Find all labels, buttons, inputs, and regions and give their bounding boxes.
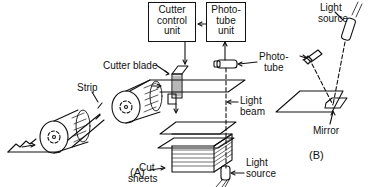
light-source-a-line-2: source — [246, 169, 276, 179]
phototube-unit-line-3: unit — [207, 26, 245, 37]
cutter-blade-label: Cutter blade — [103, 61, 157, 71]
phototube-a-line-1: Photo- — [259, 52, 288, 62]
light-beam-line-2: beam — [240, 107, 265, 117]
phototube-a-label: Photo- tube — [259, 52, 288, 73]
light-beam-label: Light beam — [240, 96, 265, 117]
strip-leader — [92, 92, 98, 102]
cutter-control-unit-line-3: unit — [149, 26, 195, 37]
cutter-control-unit-line-1: Cutter — [149, 5, 195, 16]
light-source-a-line-1: Light — [246, 158, 276, 168]
reflected-beam — [312, 64, 333, 105]
cutter-blade-icon — [168, 66, 188, 104]
light-source-b-line-1: Light — [318, 3, 348, 13]
diagram-canvas: Cutter control unit Photo- tube unit Cut… — [0, 0, 372, 187]
cutter-control-unit-box: Cutter control unit — [148, 2, 196, 42]
phototube-a-icon — [214, 60, 257, 68]
phototube-b-icon — [300, 50, 322, 64]
mirror-label: Mirror — [313, 126, 339, 136]
falling-sheet — [158, 104, 236, 148]
strip-plane — [130, 80, 245, 92]
light-source-b-label: Light source — [318, 3, 348, 24]
light-source-a-icon — [216, 166, 244, 187]
incident-beam — [333, 42, 345, 105]
panel-a-label: (A) — [130, 167, 145, 177]
panel-b-label: (B) — [309, 150, 324, 160]
phototube-unit-line-1: Photo- — [207, 5, 245, 16]
light-source-a-label: Light source — [246, 158, 276, 179]
supply-roll-icon — [22, 110, 90, 153]
mirror-plane — [276, 91, 347, 112]
phototube-a-line-2: tube — [259, 63, 288, 73]
phototube-unit-box: Photo- tube unit — [206, 2, 246, 42]
strip-label: Strip — [77, 83, 98, 93]
light-source-b-line-2: source — [318, 14, 348, 24]
light-beam-line-1: Light — [240, 96, 265, 106]
